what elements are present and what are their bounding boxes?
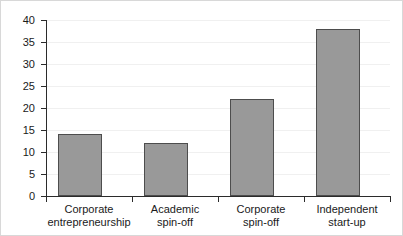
y-tick-label-35: 35 xyxy=(11,37,35,48)
y-tick-label-15: 15 xyxy=(11,125,35,136)
y-tick-mark xyxy=(41,20,46,21)
x-tick-mark xyxy=(218,197,219,202)
bar-corporate-spin-off xyxy=(230,99,274,196)
gridline xyxy=(46,20,390,21)
x-category-label-line1: Corporate xyxy=(46,203,132,216)
x-category-label-line2: spin-off xyxy=(218,216,304,229)
x-tick-mark xyxy=(304,197,305,202)
y-tick-label-5: 5 xyxy=(11,169,35,180)
x-category-label-academic-spin-off: Academic spin-off xyxy=(132,203,218,229)
x-tick-mark xyxy=(390,197,391,202)
y-tick-label-10: 10 xyxy=(11,147,35,158)
y-tick-label-30: 30 xyxy=(11,59,35,70)
bar-corporate-entrepreneurship xyxy=(58,134,102,196)
y-tick-mark xyxy=(41,152,46,153)
x-category-label-independent-start-up: Independent start-up xyxy=(304,203,390,229)
y-tick-label-20: 20 xyxy=(11,103,35,114)
plot-area xyxy=(46,20,390,196)
y-tick-label-40: 40 xyxy=(11,15,35,26)
y-tick-mark xyxy=(41,64,46,65)
y-tick-mark xyxy=(41,130,46,131)
y-tick-mark xyxy=(41,108,46,109)
y-tick-label-25: 25 xyxy=(11,81,35,92)
x-tick-mark xyxy=(46,197,47,202)
x-tick-mark xyxy=(132,197,133,202)
y-tick-label-0: 0 xyxy=(11,191,35,202)
bar-chart-figure: 40 35 30 25 20 15 10 5 0 Corporate entre… xyxy=(0,0,403,236)
x-category-label-line2: spin-off xyxy=(132,216,218,229)
x-category-label-line1: Corporate xyxy=(218,203,304,216)
y-tick-mark xyxy=(41,174,46,175)
bar-academic-spin-off xyxy=(144,143,188,196)
x-category-label-corporate-entrepreneurship: Corporate entrepreneurship xyxy=(46,203,132,229)
bar-independent-start-up xyxy=(316,29,360,196)
x-category-label-line1: Academic xyxy=(132,203,218,216)
y-tick-mark xyxy=(41,42,46,43)
y-tick-mark xyxy=(41,86,46,87)
x-category-label-line2: entrepreneurship xyxy=(46,216,132,229)
x-category-label-line2: start-up xyxy=(304,216,390,229)
x-category-label-corporate-spin-off: Corporate spin-off xyxy=(218,203,304,229)
y-axis-line xyxy=(46,20,47,197)
x-category-label-line1: Independent xyxy=(304,203,390,216)
